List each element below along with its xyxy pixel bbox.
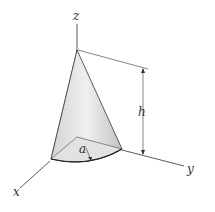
height-arrow-bottom [141,150,145,155]
height-label: h [138,105,146,119]
y-axis-label: y [186,162,194,176]
radius-label: a [79,142,86,156]
height-arrow-top [141,68,145,73]
height-top-extension [78,50,148,69]
y-axis [122,150,184,166]
cone-diagram: z y x h a [0,0,215,212]
x-axis-label: x [13,185,20,199]
z-axis-label: z [72,9,80,23]
x-axis [20,161,50,188]
